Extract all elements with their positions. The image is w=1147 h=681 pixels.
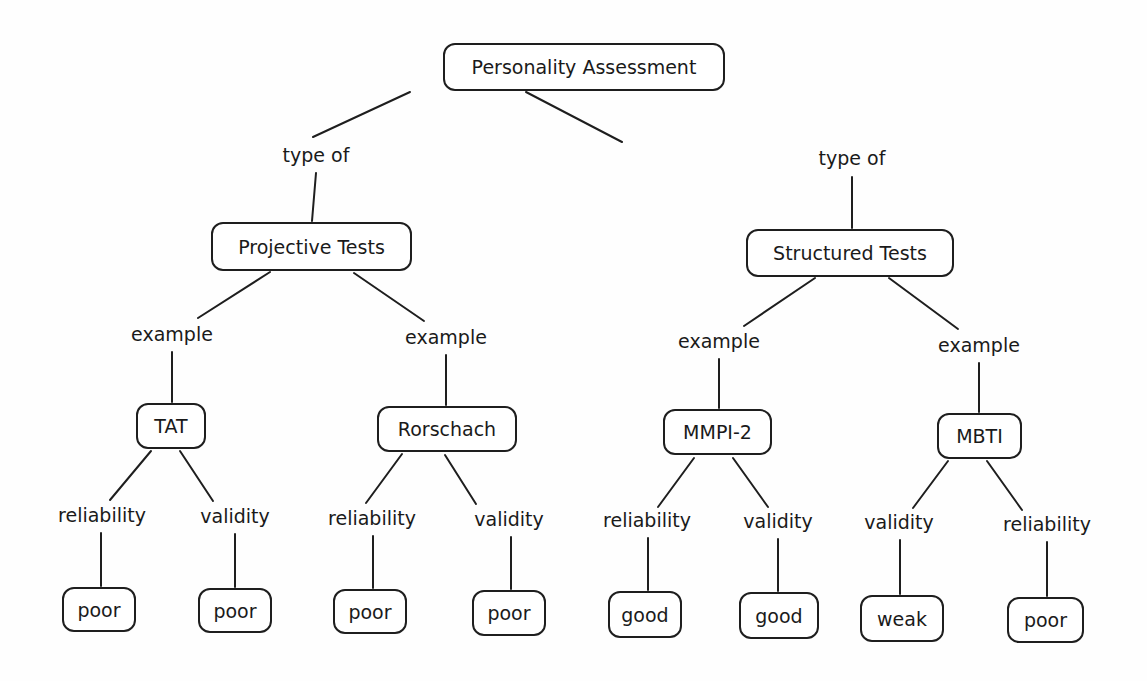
connector-line [744,278,815,326]
connector-line [889,278,958,329]
concept-node-mbti-rel[interactable]: poor [1007,597,1084,643]
connector-line [987,461,1022,510]
link-label-l-ror-rel: reliability [328,507,416,529]
connector-line [313,92,410,137]
link-label-l-ror-val: validity [474,508,543,530]
link-label-l-type-left: type of [283,144,350,166]
connector-line [658,458,694,507]
link-label-l-tat-val: validity [200,505,269,527]
connector-line [354,273,424,321]
concept-node-structured[interactable]: Structured Tests [746,229,954,277]
connector-line [733,458,768,507]
concept-map-canvas: Personality AssessmentProjective TestsSt… [0,0,1147,681]
link-label-l-mbti-val: validity [864,511,933,533]
link-label-l-mbti-rel: reliability [1003,513,1091,535]
concept-node-tat-val[interactable]: poor [198,588,272,633]
link-label-l-tat-rel: reliability [58,504,146,526]
concept-node-mmpi2[interactable]: MMPI-2 [663,409,772,455]
link-label-l-ex-tat: example [131,323,213,345]
connector-line [198,272,270,318]
connector-line [526,92,622,142]
connector-line [913,461,948,508]
link-label-l-type-right: type of [819,147,886,169]
concept-node-tat[interactable]: TAT [136,403,206,449]
concept-node-tat-rel[interactable]: poor [62,587,136,632]
connector-line [312,173,316,221]
connector-line [366,454,402,503]
link-label-l-ex-ror: example [405,326,487,348]
connector-line [445,455,476,504]
concept-node-ror-rel[interactable]: poor [333,589,407,634]
connector-line [110,451,151,500]
link-label-l-ex-mmpi: example [678,330,760,352]
link-label-l-mmpi-rel: reliability [603,509,691,531]
concept-node-ror-val[interactable]: poor [472,590,546,636]
concept-node-root[interactable]: Personality Assessment [443,43,725,91]
link-label-l-ex-mbti: example [938,334,1020,356]
concept-node-mbti[interactable]: MBTI [937,413,1022,459]
concept-node-mmpi-rel[interactable]: good [608,591,682,638]
connector-line [180,451,213,501]
link-label-l-mmpi-val: validity [743,510,812,532]
concept-node-projective[interactable]: Projective Tests [211,222,412,271]
concept-node-mbti-val[interactable]: weak [860,595,944,642]
concept-node-mmpi-val[interactable]: good [739,592,819,639]
concept-node-rorschach[interactable]: Rorschach [377,406,517,452]
